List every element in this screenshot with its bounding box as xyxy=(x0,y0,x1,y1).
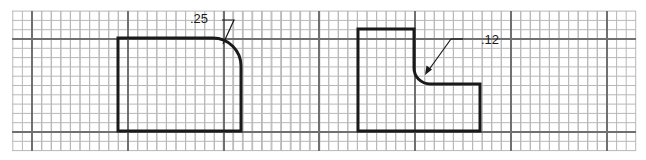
major-grid xyxy=(12,11,636,151)
radius-label-25: .25 xyxy=(190,12,208,25)
graph-paper-diagram xyxy=(0,0,646,160)
minor-grid xyxy=(12,11,636,151)
radius-label-12: .12 xyxy=(481,33,499,46)
leader-line-12-diagonal xyxy=(428,39,451,71)
rounded-corner-rectangle xyxy=(118,38,241,131)
